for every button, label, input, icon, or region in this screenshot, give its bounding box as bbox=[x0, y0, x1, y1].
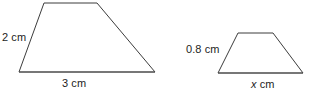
large-trapezoid-base-label: 3 cm bbox=[62, 78, 86, 89]
large-trapezoid-left-side-label: 2 cm bbox=[2, 32, 26, 43]
small-trapezoid-base-label: x cm bbox=[251, 79, 275, 90]
base-variable-symbol: x bbox=[251, 78, 257, 90]
small-trapezoid-outline bbox=[218, 33, 303, 73]
large-trapezoid-outline bbox=[19, 3, 155, 72]
geometry-figure: 2 cm 3 cm 0.8 cm x cm bbox=[0, 0, 310, 95]
small-trapezoid-left-side-label: 0.8 cm bbox=[186, 44, 220, 55]
base-unit-text: cm bbox=[260, 78, 275, 90]
